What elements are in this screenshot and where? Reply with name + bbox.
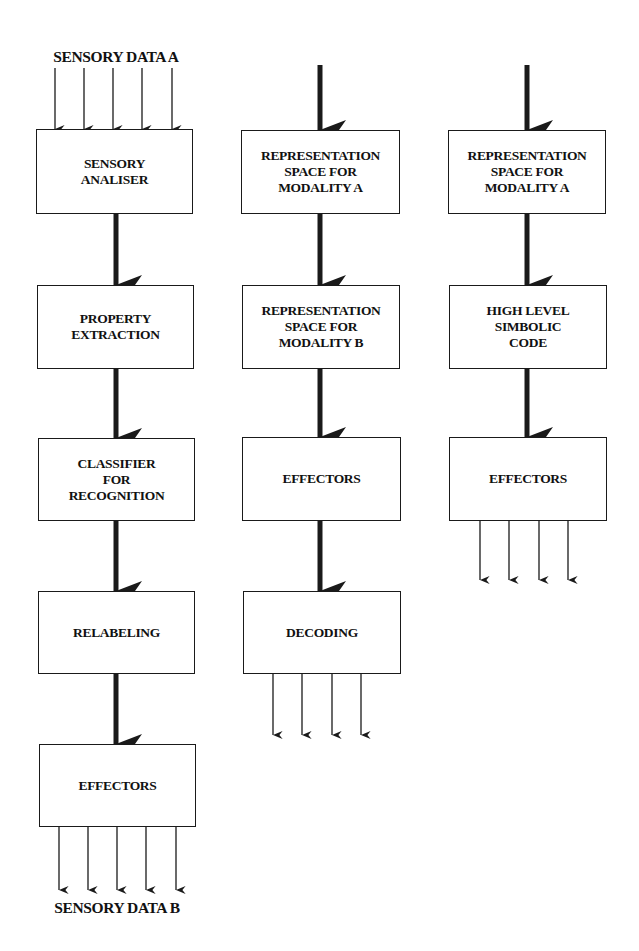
sensory-data-b-label: SENSORY DATA B <box>54 899 179 917</box>
sensory-data-a-label: SENSORY DATA A <box>53 48 178 66</box>
representation-space-modality-a-box-column-2: REPRESENTATION SPACE FOR MODALITY A <box>241 130 400 214</box>
representation-space-modality-a-box-column-3: REPRESENTATION SPACE FOR MODALITY A <box>448 130 606 214</box>
sensory-analiser-box: SENSORY ANALISER <box>36 129 193 214</box>
output-arrows-sensory-data-b <box>59 826 176 890</box>
relabeling-box: RELABELING <box>38 591 195 674</box>
input-arrows-sensory-data-a <box>55 68 172 129</box>
representation-space-modality-b-box: REPRESENTATION SPACE FOR MODALITY B <box>242 285 400 369</box>
column-2-output-arrows <box>273 673 361 735</box>
effectors-box-column-1: EFFECTORS <box>39 744 196 827</box>
effectors-box-column-3: EFFECTORS <box>449 437 607 521</box>
effectors-box-column-2: EFFECTORS <box>242 437 401 521</box>
high-level-simbolic-code-box: HIGH LEVEL SIMBOLIC CODE <box>449 285 607 369</box>
classifier-for-recognition-box: CLASSIFIER FOR RECOGNITION <box>38 438 195 521</box>
decoding-box: DECODING <box>243 591 401 674</box>
column-3-output-arrows <box>480 520 568 580</box>
property-extraction-box: PROPERTY EXTRACTION <box>37 285 194 369</box>
